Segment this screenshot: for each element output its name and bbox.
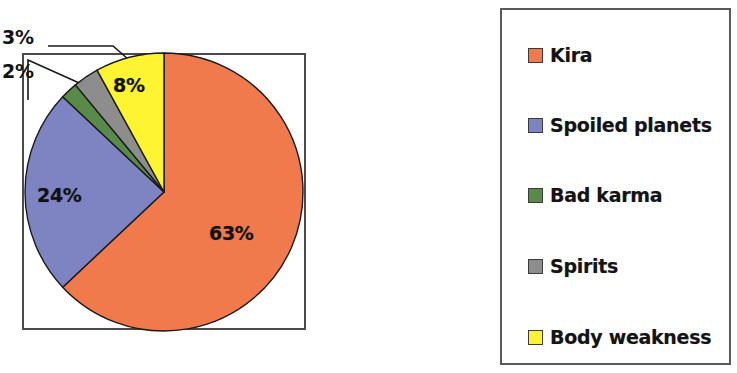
legend-panel: KiraSpoiled planetsBad karmaSpiritsBody … bbox=[500, 8, 731, 365]
legend-item-label: Body weakness bbox=[550, 326, 711, 348]
legend-list: KiraSpoiled planetsBad karmaSpiritsBody … bbox=[502, 10, 729, 363]
slice-label-body-weakness: 8% bbox=[113, 74, 145, 96]
legend-item-label: Spoiled planets bbox=[550, 114, 712, 136]
legend-swatch-icon bbox=[528, 188, 543, 203]
legend-item-label: Bad karma bbox=[550, 184, 662, 206]
legend-item-spirits[interactable]: Spirits bbox=[528, 255, 618, 277]
legend-swatch-icon bbox=[528, 118, 543, 133]
legend-item-label: Kira bbox=[550, 44, 592, 66]
legend-swatch-icon bbox=[528, 259, 543, 274]
legend-item-body-weakness[interactable]: Body weakness bbox=[528, 326, 711, 348]
slice-label-spirits: 3% bbox=[2, 26, 34, 48]
legend-item-bad-karma[interactable]: Bad karma bbox=[528, 184, 662, 206]
pie-chart-figure: 63% 24% 8% 3% 2% KiraSpoiled planetsBad … bbox=[0, 0, 737, 373]
legend-item-kira[interactable]: Kira bbox=[528, 44, 592, 66]
slice-label-kira: 63% bbox=[209, 222, 254, 244]
pie-panel: 63% 24% 8% 3% 2% bbox=[0, 0, 370, 373]
legend-swatch-icon bbox=[528, 48, 543, 63]
slice-label-spoiled-planets: 24% bbox=[37, 184, 82, 206]
legend-swatch-icon bbox=[528, 330, 543, 345]
slice-label-bad-karma: 2% bbox=[2, 60, 34, 82]
legend-item-label: Spirits bbox=[550, 255, 618, 277]
legend-item-spoiled-planets[interactable]: Spoiled planets bbox=[528, 114, 712, 136]
